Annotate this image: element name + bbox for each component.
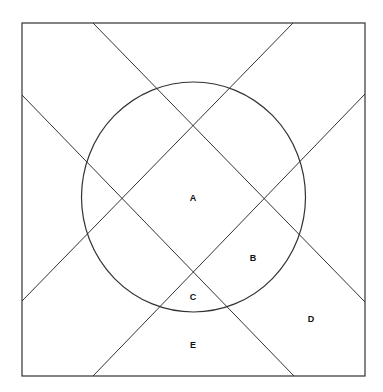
region-label-a: A bbox=[190, 193, 197, 203]
region-label-d: D bbox=[308, 314, 315, 324]
diagonal-line-1 bbox=[93, 23, 365, 302]
region-labels: ABCDE bbox=[190, 193, 315, 350]
diagonal-line-2 bbox=[22, 95, 294, 376]
region-label-b: B bbox=[250, 253, 257, 263]
region-diagram: ABCDE bbox=[0, 0, 383, 392]
region-label-c: C bbox=[190, 292, 197, 302]
region-label-e: E bbox=[190, 340, 196, 350]
diagonal-line-4 bbox=[93, 94, 365, 376]
